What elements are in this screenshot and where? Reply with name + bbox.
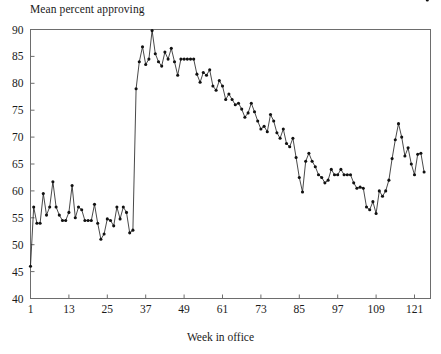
data-point-marker: [205, 74, 208, 77]
data-point-marker: [55, 205, 58, 208]
data-point-marker: [157, 60, 160, 63]
data-point-marker: [138, 60, 141, 63]
data-point-marker: [317, 173, 320, 176]
x-axis-tick-label: 49: [178, 303, 190, 315]
x-axis-tick-label: 73: [255, 303, 267, 315]
data-point-marker: [314, 165, 317, 168]
data-point-marker: [343, 173, 346, 176]
data-point-marker: [179, 58, 182, 61]
data-point-marker: [195, 73, 198, 76]
data-point-marker: [135, 87, 138, 90]
data-point-marker: [269, 113, 272, 116]
y-axis-tick-label: 45: [0, 266, 24, 278]
data-point-marker: [208, 68, 211, 71]
y-axis-tick-label: 90: [0, 24, 24, 36]
data-point-marker: [115, 205, 118, 208]
data-point-marker: [355, 187, 358, 190]
data-point-marker: [202, 71, 205, 74]
data-point-marker: [218, 79, 221, 82]
x-axis-tick-label: 13: [63, 303, 75, 315]
data-point-marker: [119, 217, 122, 220]
x-axis-tick-label: 61: [217, 303, 229, 315]
x-axis-tick-label: 97: [332, 303, 344, 315]
data-point-marker: [83, 219, 86, 222]
data-point-marker: [183, 58, 186, 61]
data-point-marker: [240, 108, 243, 111]
data-point-marker: [378, 189, 381, 192]
data-point-marker: [250, 102, 253, 105]
approval-rating-chart: Mean percent approving 40455055606570758…: [0, 0, 441, 354]
data-point-marker: [253, 110, 256, 113]
data-point-marker: [330, 168, 333, 171]
data-point-marker: [144, 63, 147, 66]
data-point-marker: [67, 211, 70, 214]
y-axis-tick-label: 80: [0, 77, 24, 89]
data-point-marker: [327, 179, 330, 182]
x-axis-tick-label: 85: [294, 303, 306, 315]
y-axis-tick-label: 60: [0, 185, 24, 197]
data-point-marker: [170, 47, 173, 50]
data-point-marker: [96, 222, 99, 225]
data-point-marker: [365, 205, 368, 208]
data-point-marker: [61, 219, 64, 222]
data-point-marker: [416, 153, 419, 156]
data-point-marker: [279, 137, 282, 140]
data-point-marker: [192, 58, 195, 61]
data-point-marker: [256, 119, 259, 122]
data-point-marker: [45, 214, 48, 217]
data-point-marker: [349, 173, 352, 176]
data-point-marker: [128, 231, 131, 234]
data-point-marker: [391, 157, 394, 160]
data-point-marker: [42, 192, 45, 195]
data-point-marker: [352, 181, 355, 184]
series-line: [31, 31, 425, 267]
data-point-marker: [39, 222, 42, 225]
plot-area: [0, 0, 441, 354]
data-point-marker: [234, 103, 237, 106]
data-point-marker: [147, 58, 150, 61]
data-point-marker: [167, 58, 170, 61]
data-point-marker: [375, 212, 378, 215]
data-point-marker: [32, 205, 35, 208]
data-point-marker: [362, 187, 365, 190]
data-point-marker: [29, 265, 32, 268]
data-point-marker: [163, 51, 166, 54]
data-point-marker: [407, 146, 410, 149]
data-point-marker: [215, 89, 218, 92]
data-point-marker: [346, 173, 349, 176]
data-point-marker: [211, 84, 214, 87]
y-axis-tick-label: 50: [0, 239, 24, 251]
x-axis-label: Week in office: [0, 331, 441, 343]
y-axis-tick-label: 55: [0, 212, 24, 224]
y-axis-tick-label: 85: [0, 50, 24, 62]
data-point-marker: [189, 58, 192, 61]
data-point-marker: [237, 102, 240, 105]
data-point-marker: [275, 131, 278, 134]
y-axis-tick-label: 40: [0, 293, 24, 305]
data-point-marker: [311, 160, 314, 163]
data-point-marker: [93, 203, 96, 206]
data-point-marker: [298, 176, 301, 179]
data-point-marker: [301, 190, 304, 193]
x-axis-tick-label: 1: [28, 303, 34, 315]
data-point-marker: [80, 208, 83, 211]
data-point-marker: [282, 127, 285, 130]
data-point-marker: [259, 127, 262, 130]
data-point-marker: [74, 216, 77, 219]
data-point-marker: [368, 208, 371, 211]
data-point-marker: [336, 173, 339, 176]
data-point-marker: [221, 84, 224, 87]
data-point-marker: [323, 181, 326, 184]
data-point-marker: [224, 98, 227, 101]
data-point-marker: [285, 142, 288, 145]
data-point-marker: [131, 229, 134, 232]
data-point-marker: [141, 45, 144, 48]
data-point-marker: [51, 180, 54, 183]
data-point-marker: [384, 189, 387, 192]
data-point-marker: [87, 219, 90, 222]
data-point-marker: [307, 152, 310, 155]
data-point-marker: [106, 217, 109, 220]
data-point-marker: [35, 222, 38, 225]
data-point-marker: [394, 138, 397, 141]
data-point-marker: [387, 179, 390, 182]
